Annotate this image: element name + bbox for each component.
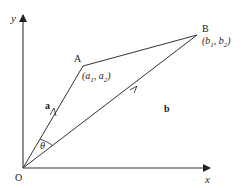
angle-theta-label: θ xyxy=(40,141,45,151)
vector-diagram xyxy=(0,0,247,188)
point-b-coords: (b1, b2) xyxy=(202,36,231,49)
point-a-coords: (a1, a2) xyxy=(82,71,111,84)
vector-b-label: b xyxy=(164,104,170,114)
vector-a-line xyxy=(23,66,83,168)
x-axis-label: x xyxy=(205,174,210,185)
segment-ab xyxy=(83,35,197,66)
origin-label: O xyxy=(15,173,22,183)
vector-b-arrow-icon xyxy=(130,86,137,93)
point-a-label: A xyxy=(74,54,81,64)
point-b-label: B xyxy=(202,24,209,34)
y-axis-label: y xyxy=(11,13,16,24)
vector-a-arrow-icon xyxy=(50,108,56,116)
vector-a-label: a xyxy=(45,101,50,111)
